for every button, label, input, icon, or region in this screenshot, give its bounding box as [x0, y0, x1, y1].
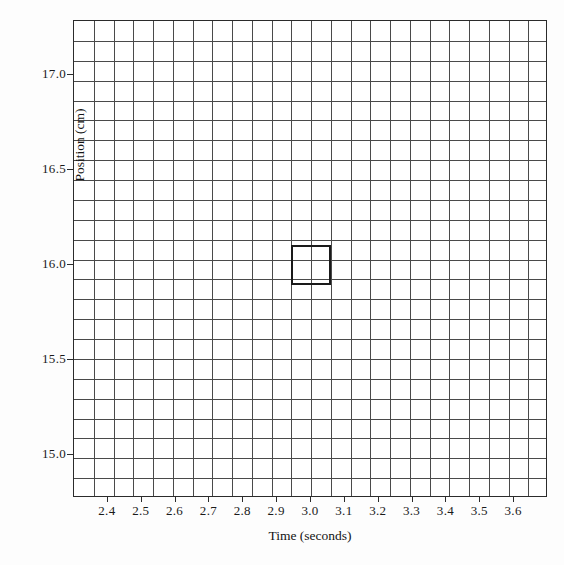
gridline-horizontal	[74, 339, 546, 340]
gridline-vertical	[469, 21, 470, 496]
gridline-horizontal	[74, 319, 546, 320]
x-axis-tick-label: 2.6	[166, 503, 183, 519]
x-axis-tick	[344, 497, 345, 502]
y-axis-tick-label: 15.0	[42, 446, 66, 462]
gridline-horizontal	[74, 478, 546, 479]
y-axis-tick-label: 16.0	[42, 256, 66, 272]
x-axis-tick	[175, 497, 176, 502]
x-axis-tick-label: 2.5	[132, 503, 149, 519]
gridline-horizontal	[74, 379, 546, 380]
gridline-vertical	[272, 21, 273, 496]
y-axis-tick-label: 15.5	[42, 351, 66, 367]
y-axis-tick	[67, 454, 73, 455]
gridline-vertical	[390, 21, 391, 496]
x-axis-tick	[310, 497, 311, 502]
x-axis-title: Time (seconds)	[73, 528, 547, 544]
x-axis-tick	[276, 497, 277, 502]
gridline-vertical	[509, 21, 510, 496]
gridline-vertical	[489, 21, 490, 496]
x-axis-tick-label: 3.1	[335, 503, 352, 519]
gridline-horizontal	[74, 140, 546, 141]
x-axis-tick	[141, 497, 142, 502]
x-axis-tick	[107, 497, 108, 502]
x-axis-tick-label: 3.5	[471, 503, 488, 519]
gridline-vertical	[232, 21, 233, 496]
gridline-horizontal	[74, 200, 546, 201]
gridline-horizontal	[74, 240, 546, 241]
x-axis-tick	[445, 497, 446, 502]
gridline-horizontal	[74, 61, 546, 62]
y-axis-tick-label: 16.5	[42, 161, 66, 177]
x-axis-tick	[479, 497, 480, 502]
x-axis-tick	[208, 497, 209, 502]
gridline-horizontal	[74, 220, 546, 221]
gridline-horizontal	[74, 438, 546, 439]
gridline-vertical	[193, 21, 194, 496]
gridline-vertical	[351, 21, 352, 496]
x-axis-tick	[242, 497, 243, 502]
gridline-vertical	[331, 21, 332, 496]
gridline-vertical	[252, 21, 253, 496]
gridline-horizontal	[74, 120, 546, 121]
gridline-horizontal	[74, 160, 546, 161]
gridline-vertical	[370, 21, 371, 496]
x-axis-tick	[513, 497, 514, 502]
x-axis-tick-label: 2.4	[98, 503, 115, 519]
x-axis-tick-label: 2.9	[268, 503, 285, 519]
gridline-horizontal	[74, 81, 546, 82]
x-axis-tick-label: 2.7	[200, 503, 217, 519]
gridline-horizontal	[74, 359, 546, 360]
gridline-horizontal	[74, 101, 546, 102]
x-axis-tick	[378, 497, 379, 502]
x-axis-tick-label: 2.8	[234, 503, 251, 519]
chart-figure: 2.42.52.62.72.82.93.03.13.23.33.43.53.6 …	[0, 0, 564, 565]
y-axis-tick	[67, 359, 73, 360]
y-axis-tick-label: 17.0	[42, 66, 66, 82]
highlighted-grid-cell[interactable]	[291, 245, 330, 285]
gridline-horizontal	[74, 399, 546, 400]
gridline-vertical	[153, 21, 154, 496]
y-axis-title: Position (cm)	[72, 24, 88, 267]
x-axis-tick-label: 3.6	[505, 503, 522, 519]
x-axis-tick-label: 3.0	[301, 503, 318, 519]
gridline-vertical	[133, 21, 134, 496]
gridline-horizontal	[74, 458, 546, 459]
gridline-vertical	[410, 21, 411, 496]
gridline-horizontal	[74, 41, 546, 42]
gridline-vertical	[114, 21, 115, 496]
gridline-vertical	[94, 21, 95, 496]
plot-area	[73, 20, 547, 497]
gridline-vertical	[528, 21, 529, 496]
x-axis-tick-label: 3.2	[369, 503, 386, 519]
x-axis-tick-label: 3.4	[437, 503, 454, 519]
gridline-horizontal	[74, 419, 546, 420]
gridline-vertical	[212, 21, 213, 496]
x-axis-tick-label: 3.3	[403, 503, 420, 519]
gridline-vertical	[449, 21, 450, 496]
gridline-vertical	[430, 21, 431, 496]
gridline-horizontal	[74, 180, 546, 181]
gridline-vertical	[173, 21, 174, 496]
gridline-horizontal	[74, 299, 546, 300]
x-axis-tick	[412, 497, 413, 502]
